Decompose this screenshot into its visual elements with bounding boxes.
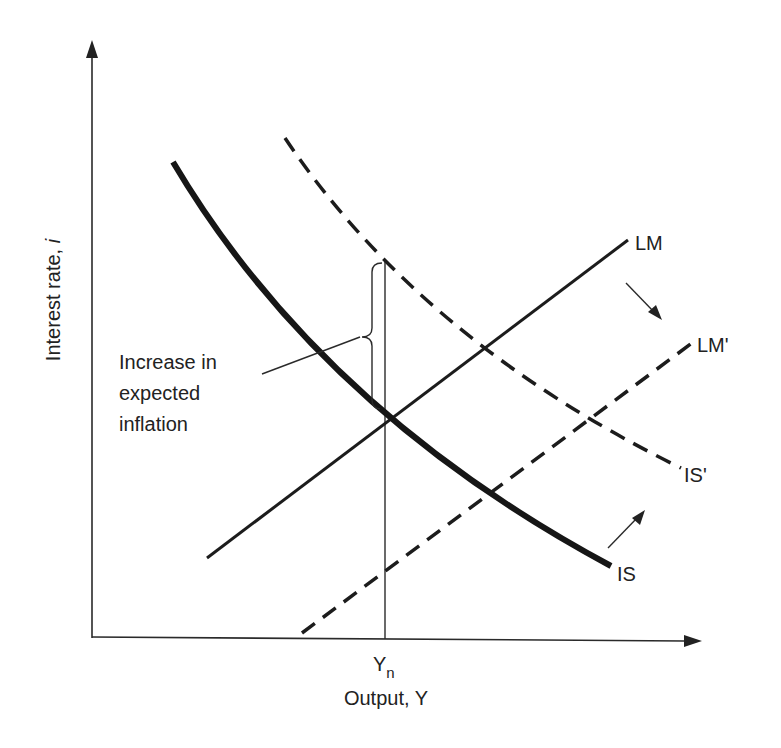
lm-curve (207, 240, 628, 558)
y-axis-label-var: i (42, 238, 64, 243)
x-axis-label: Output, Y (344, 687, 428, 709)
x-tick-main: Y (373, 653, 386, 675)
is-curve (173, 162, 611, 566)
is-label: IS (617, 563, 636, 585)
x-tick-subscript: n (386, 664, 394, 681)
lm-shift-arrow-icon (626, 283, 662, 320)
x-axis-arrowhead-icon (684, 635, 702, 647)
annotation-line-3: inflation (119, 413, 188, 435)
lm-prime-curve (302, 343, 692, 633)
lm-prime-label: LM' (697, 334, 729, 356)
lm-label: LM (635, 232, 663, 254)
is-prime-label: IS' (684, 464, 707, 486)
y-axis-arrowhead-icon (86, 40, 98, 58)
y-axis-label-main: Interest rate, (42, 243, 64, 361)
is-prime-curve (285, 138, 681, 468)
x-axis (92, 635, 702, 647)
y-axis-label: Interest rate, i (42, 238, 64, 361)
y-axis (86, 40, 98, 638)
is-lm-diagram: LM LM' IS' IS Increase in expected infla… (0, 0, 781, 748)
is-shift-arrow-icon (608, 510, 645, 548)
x-tick-yn: Yn (373, 653, 395, 681)
curly-brace-icon (362, 263, 382, 409)
annotation-line-1: Increase in (119, 351, 217, 373)
annotation-line-2: expected (119, 382, 200, 404)
